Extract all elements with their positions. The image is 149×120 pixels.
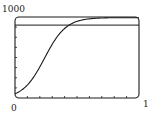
axis-ticks — [15, 27, 127, 98]
chart — [0, 0, 149, 120]
plot-frame — [15, 17, 139, 98]
x-axis-min-label: 0 — [11, 104, 17, 113]
x-axis-max-label: 1 — [143, 100, 149, 109]
logistic-curve — [15, 18, 139, 94]
y-axis-max-label: 1000 — [2, 5, 25, 14]
